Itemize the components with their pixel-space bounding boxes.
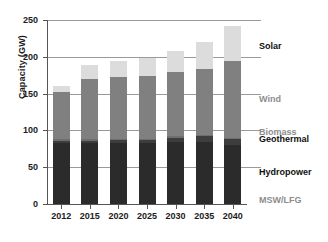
bar-segment-msw-lfg [139,201,156,204]
x-axis-tick [90,205,91,209]
bar-segment-wind [224,61,241,138]
bar-segment-msw-lfg [196,201,213,204]
bar-segment-biomass [167,136,184,137]
bar-segment-solar [196,42,213,68]
bar-segment-solar [110,61,127,77]
y-axis-tick-label: 50 [8,163,38,172]
x-axis-tick [233,205,234,209]
bar-segment-biomass [81,139,98,140]
bar-segment-solar [224,26,241,61]
bar-segment-biomass [139,139,156,140]
y-axis-tick-label: 0 [8,200,38,209]
plot-area: 2012201520202025203020352040 [47,20,247,205]
y-axis-tick-label: 200 [8,53,38,62]
bar-segment-msw-lfg [110,201,127,204]
y-axis-tick-label: 150 [8,90,38,99]
bar-segment-geothermal [224,139,241,145]
bar-segment-geothermal [53,141,70,143]
bar-segment-solar [81,65,98,79]
y-axis-title: Capacity (GW) [17,7,27,127]
bar-segment-wind [167,72,184,137]
bar-2015 [81,65,98,204]
series-label-solar: Solar [259,42,282,51]
bar-segment-wind [196,69,213,135]
bar-segment-msw-lfg [53,201,70,204]
series-label-wind: Wind [259,95,281,104]
x-axis-tick [118,205,119,209]
y-axis-tick-label: 250 [8,16,38,25]
bar-segment-wind [81,79,98,139]
bar-segment-geothermal [139,140,156,143]
y-axis-tick-label: 100 [8,126,38,135]
bar-2012 [53,86,70,204]
x-axis-tick [147,205,148,209]
bar-segment-hydropower [53,143,70,201]
bar-segment-msw-lfg [81,201,98,204]
bar-segment-hydropower [110,143,127,201]
stacked-bar-chart: Capacity (GW) 050100150200250 2012201520… [0,0,328,242]
bar-2030 [167,51,184,204]
bar-segment-biomass [110,139,127,140]
bar-segment-wind [110,77,127,139]
bar-segment-biomass [53,139,70,140]
bar-segment-solar [167,51,184,72]
bar-segment-biomass [224,138,241,139]
bar-2035 [196,42,213,204]
bar-segment-msw-lfg [224,201,241,204]
series-label-msw-lfg: MSW/LFG [259,196,302,205]
bar-segment-wind [139,76,156,139]
x-axis-tick [61,205,62,209]
bar-segment-geothermal [167,138,184,142]
bar-segment-solar [53,86,70,93]
x-axis-tick [204,205,205,209]
bar-segment-hydropower [196,142,213,201]
series-label-hydropower: Hydropower [259,168,312,177]
bar-segment-geothermal [110,140,127,143]
bar-segment-wind [53,92,70,139]
bar-segment-geothermal [196,136,213,142]
bar-segment-hydropower [224,145,241,201]
y-axis-line [47,20,48,205]
gridline [47,20,261,21]
x-axis-tick [176,205,177,209]
bar-segment-geothermal [81,141,98,143]
bar-segment-solar [139,58,156,76]
bar-segment-hydropower [139,143,156,201]
bar-segment-biomass [196,135,213,136]
bar-2025 [139,58,156,204]
x-axis-tick-label: 2040 [216,212,250,221]
bar-2040 [224,26,241,204]
series-label-geothermal: Geothermal [259,135,309,144]
bar-segment-hydropower [167,142,184,201]
bar-2020 [110,60,127,204]
bar-segment-hydropower [81,143,98,201]
bar-segment-msw-lfg [167,201,184,204]
